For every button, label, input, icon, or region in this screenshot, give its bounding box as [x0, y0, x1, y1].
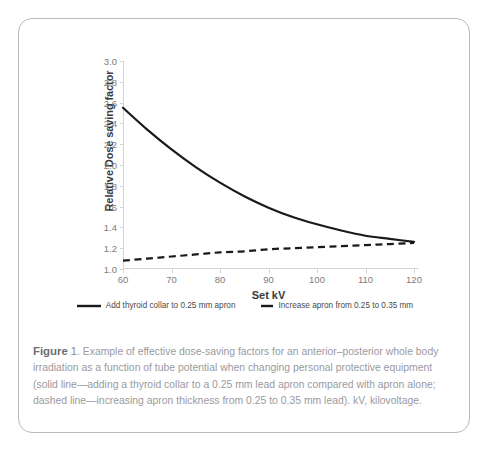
y-tick-label: 2.4 — [104, 118, 117, 129]
x-tick-mark — [317, 269, 318, 273]
legend-entry-apron-thickness: Increase apron from 0.25 to 0.35 mm — [261, 301, 413, 310]
plot-area: 1.01.21.41.61.82.02.22.42.62.83.0 607080… — [123, 61, 414, 269]
y-tick-label: 1.6 — [104, 201, 117, 212]
x-tick-label: 90 — [263, 274, 274, 285]
y-tick-label: 2.0 — [104, 160, 117, 171]
y-tick-label: 3.0 — [104, 56, 117, 67]
y-tick-label: 2.8 — [104, 76, 117, 87]
x-tick-mark — [220, 269, 221, 273]
figure-caption: Figure 1. Example of effective dose-savi… — [33, 343, 457, 410]
y-tick-label: 1.4 — [104, 222, 117, 233]
legend-label-apron-thickness: Increase apron from 0.25 to 0.35 mm — [278, 301, 413, 310]
caption-figure-number: 1. — [71, 345, 80, 357]
chart-block: Relative Dose saving factor 1.01.21.41.6… — [19, 33, 471, 323]
figure-frame: Relative Dose saving factor 1.01.21.41.6… — [18, 18, 470, 433]
caption-text: Example of effective dose-saving factors… — [33, 346, 438, 406]
x-tick-label: 100 — [309, 274, 325, 285]
legend-dashed-line-icon — [261, 302, 273, 310]
x-tick-mark — [366, 269, 367, 273]
plot-wrapper: Relative Dose saving factor 1.01.21.41.6… — [55, 43, 455, 313]
x-axis-title: Set kV — [123, 289, 414, 301]
series-line-thyroid-collar — [123, 108, 414, 242]
x-tick-mark — [269, 269, 270, 273]
x-tick-label: 70 — [166, 274, 177, 285]
series-plot — [123, 61, 414, 269]
x-tick-mark — [123, 269, 124, 273]
legend-solid-line-icon — [77, 302, 101, 310]
x-tick-label: 120 — [406, 274, 422, 285]
x-tick-label: 80 — [215, 274, 226, 285]
caption-figure-word: Figure — [33, 345, 68, 357]
series-line-apron-thickness — [123, 243, 414, 261]
y-tick-label: 2.6 — [104, 97, 117, 108]
chart-legend: Add thyroid collar to 0.25 mm apron Incr… — [19, 301, 471, 310]
x-tick-mark — [172, 269, 173, 273]
legend-label-thyroid-collar: Add thyroid collar to 0.25 mm apron — [106, 301, 236, 310]
x-tick-label: 60 — [118, 274, 129, 285]
y-tick-label: 1.2 — [104, 243, 117, 254]
x-tick-mark — [414, 269, 415, 273]
y-tick-label: 2.2 — [104, 139, 117, 150]
legend-entry-thyroid-collar: Add thyroid collar to 0.25 mm apron — [77, 301, 236, 310]
y-tick-label: 1.0 — [104, 264, 117, 275]
x-tick-label: 110 — [358, 274, 373, 285]
y-tick-label: 1.8 — [104, 180, 117, 191]
